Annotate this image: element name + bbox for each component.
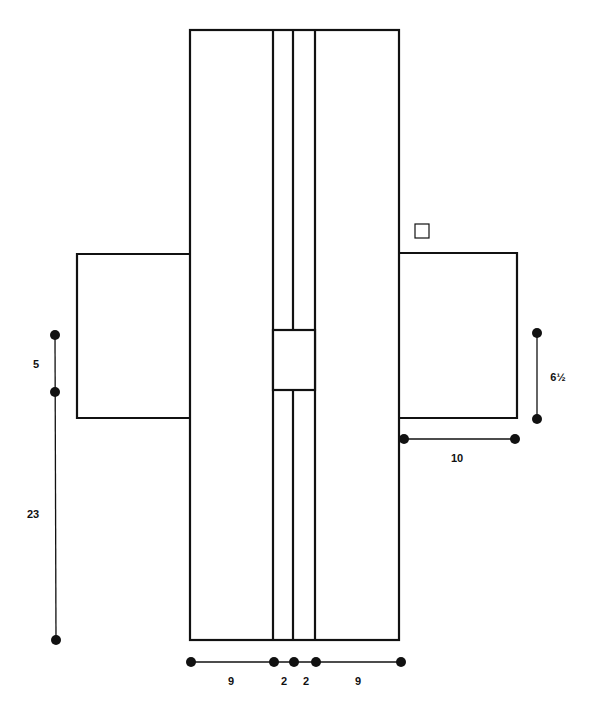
dimension-left-lower: 23: [27, 508, 39, 520]
dimension-right-wing-width: 10: [451, 452, 463, 464]
small-square: [415, 224, 429, 238]
dimension-bottom-4: 9: [355, 675, 361, 687]
dimension-left-upper: 5: [33, 358, 39, 370]
center-box: [273, 330, 315, 390]
dimension-right-wing-height: 6½: [550, 371, 565, 383]
dimension-bottom-3: 2: [303, 675, 309, 687]
right-wing: [399, 253, 517, 418]
left-wing: [77, 254, 190, 418]
cross-shaped-diagram: [0, 0, 590, 710]
dimension-bottom-1: 9: [228, 675, 234, 687]
dimension-bottom-2: 2: [281, 675, 287, 687]
